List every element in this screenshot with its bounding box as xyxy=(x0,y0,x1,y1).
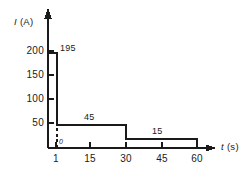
y-tick-label-150: 150 xyxy=(18,69,44,80)
current-vs-time-step-chart xyxy=(0,0,248,173)
value-label-15: 15 xyxy=(152,126,163,136)
y-axis-unit: (A) xyxy=(20,16,34,27)
x-tick-label-60: 60 xyxy=(186,153,208,164)
x-axis-unit: (s) xyxy=(227,141,239,152)
y-axis-symbol: I xyxy=(14,16,17,27)
origin-label: 0 xyxy=(59,138,63,145)
y-tick-label-100: 100 xyxy=(18,93,44,104)
value-label-45: 45 xyxy=(84,112,95,122)
y-tick-label-200: 200 xyxy=(18,45,44,56)
y-axis-label: I (A) xyxy=(14,16,33,27)
value-label-195: 195 xyxy=(60,43,76,53)
x-tick-label-30: 30 xyxy=(115,153,137,164)
x-axis-label: t (s) xyxy=(221,141,239,152)
x-tick-label-1: 1 xyxy=(45,153,67,164)
x-tick-label-45: 45 xyxy=(151,153,173,164)
x-axis-symbol: t xyxy=(221,141,224,152)
y-tick-label-50: 50 xyxy=(18,117,44,128)
x-tick-label-15: 15 xyxy=(79,153,101,164)
